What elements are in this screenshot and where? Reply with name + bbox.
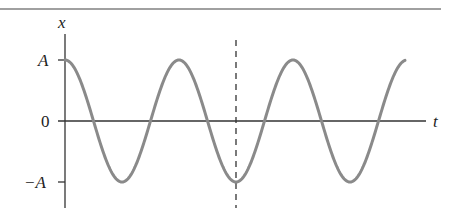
y-axis-label: x [57,13,66,32]
x-axis-label: t [433,112,439,131]
tick-label-neg-a: −A [24,173,46,192]
tick-label-zero: 0 [41,112,50,131]
oscillation-diagram: x t A 0 −A [0,0,462,217]
tick-label-a: A [37,51,49,70]
